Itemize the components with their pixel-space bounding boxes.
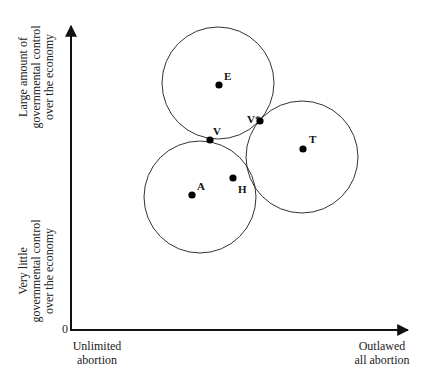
point-t-label: T bbox=[309, 133, 317, 145]
point-v bbox=[206, 136, 213, 143]
x-axis-right-label: Outlawed all abortion bbox=[355, 339, 410, 367]
svg-text:over the economy: over the economy bbox=[42, 228, 56, 314]
svg-text:over the economy: over the economy bbox=[42, 34, 56, 120]
svg-text:abortion: abortion bbox=[77, 353, 117, 367]
point-v-star-label: V* bbox=[247, 113, 261, 125]
point-a bbox=[188, 191, 195, 198]
svg-text:all abortion: all abortion bbox=[355, 353, 410, 367]
circle-t bbox=[246, 101, 358, 213]
point-v-label: V bbox=[213, 125, 221, 137]
y-axis-top-label: Large amount of governmental control ove… bbox=[16, 25, 56, 129]
y-axis-bottom-label: Very little governmental control over th… bbox=[16, 219, 56, 323]
svg-text:governmental control: governmental control bbox=[29, 25, 43, 129]
point-e-label: E bbox=[224, 70, 231, 82]
svg-text:Very little: Very little bbox=[16, 247, 30, 295]
point-a-label: A bbox=[197, 180, 205, 192]
circle-a-h bbox=[144, 141, 256, 253]
point-e bbox=[215, 81, 222, 88]
svg-text:Unlimited: Unlimited bbox=[73, 339, 122, 353]
point-t bbox=[299, 145, 306, 152]
svg-text:Large amount of: Large amount of bbox=[16, 37, 30, 117]
svg-text:Outlawed: Outlawed bbox=[359, 339, 406, 353]
x-axis-left-label: Unlimited abortion bbox=[73, 339, 122, 367]
svg-text:governmental control: governmental control bbox=[29, 219, 43, 323]
point-h bbox=[229, 174, 236, 181]
origin-label: 0 bbox=[62, 322, 68, 336]
spatial-voting-diagram: 0 Large amount of governmental control o… bbox=[0, 0, 438, 382]
point-h-label: H bbox=[238, 183, 247, 195]
